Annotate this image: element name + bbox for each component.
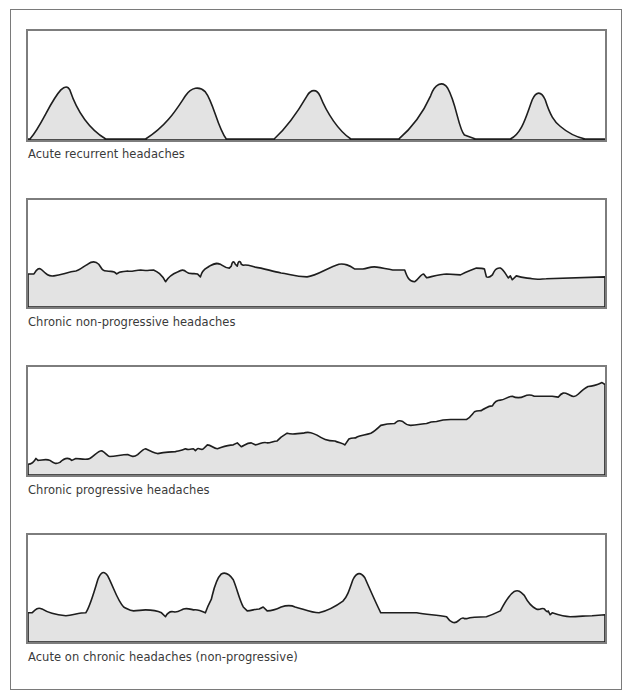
panel-chronic-non-progressive [26,198,607,309]
panel-label-chronic-non-progressive: Chronic non-progressive headaches [28,315,236,329]
panel-acute-recurrent [26,29,607,142]
waveform-path [28,261,605,307]
acute-on-chronic-waveform [28,535,605,642]
waveform-path [28,84,605,140]
panel-label-acute-on-chronic: Acute on chronic headaches (non-progress… [28,650,298,664]
panel-label-acute-recurrent: Acute recurrent headaches [28,147,185,161]
waveform-path [28,572,605,642]
panel-acute-on-chronic [26,533,607,644]
waveform-path [28,383,605,475]
chronic-progressive-waveform [28,367,605,475]
panel-chronic-progressive [26,365,607,477]
chronic-non-progressive-waveform [28,200,605,307]
panel-label-chronic-progressive: Chronic progressive headaches [28,483,210,497]
acute-recurrent-waveform [28,31,605,140]
